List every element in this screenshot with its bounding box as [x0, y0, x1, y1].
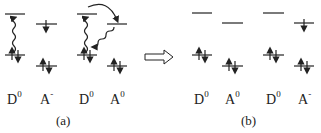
panel-a-d0-levels — [5, 14, 25, 60]
label-a-1: D0 — [7, 91, 22, 107]
label-a-3: D0 — [79, 91, 94, 107]
panel-a-d0-second-levels — [77, 4, 117, 60]
caption-b: (b) — [241, 114, 256, 127]
diagram-graphics — [0, 0, 321, 133]
label-a-2: A- — [40, 91, 53, 107]
label-b-2: A0 — [225, 91, 240, 107]
energy-level-diagram: D0 A- D0 A0 (a) D0 A0 D0 A- (b) — [0, 0, 321, 133]
label-b-4: A- — [298, 91, 311, 107]
panel-b-a0-levels — [222, 23, 243, 71]
label-b-1: D0 — [194, 91, 209, 107]
label-b-3: D0 — [266, 91, 281, 107]
label-a-4: A0 — [110, 91, 125, 107]
caption-a: (a) — [56, 114, 70, 127]
panel-a-a-minus-levels — [36, 20, 57, 71]
transition-arrow — [145, 50, 173, 64]
panel-a-a0-levels — [94, 24, 127, 71]
panel-b-d0-second-levels — [263, 13, 284, 60]
panel-b-d0-levels — [192, 13, 212, 60]
panel-b-a-minus-levels — [294, 19, 314, 71]
